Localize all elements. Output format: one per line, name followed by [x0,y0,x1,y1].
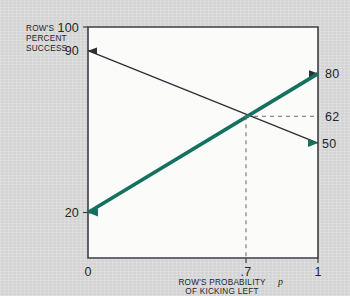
x-axis-label-line-1: ROW'S PROBABILITY [178,278,266,287]
y-tick-label-20: 20 [65,206,79,220]
y-tick-label-90: 90 [65,44,79,58]
x-axis-variable-p: p [277,276,283,287]
x-tick-label-07: .7 [241,265,252,279]
payoff-line-chart: ROW'S PERCENT SUCCESS 100 90 20 80 62 50… [0,0,350,296]
y-tick-label-50: 50 [322,137,336,151]
y-axis-label-line-1: ROW'S [26,24,55,33]
x-axis-label-line-2: OF KICKING LEFT [185,287,258,296]
y-axis-label-line-3: SUCCESS [26,44,68,53]
y-tick-label-62: 62 [325,110,339,124]
x-tick-label-0: 0 [84,265,91,279]
figure-canvas: ROW'S PERCENT SUCCESS 100 90 20 80 62 50… [0,0,350,296]
x-tick-label-1: 1 [314,265,321,279]
y-axis-label-line-2: PERCENT [26,34,67,43]
y-tick-label-80: 80 [325,67,339,81]
y-tick-label-100: 100 [58,21,79,35]
